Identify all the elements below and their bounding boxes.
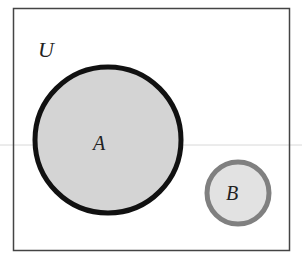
- set-a-circle: [35, 67, 181, 213]
- set-b-label: B: [226, 182, 238, 204]
- venn-diagram: U A B: [0, 0, 302, 263]
- set-a-label: A: [91, 132, 106, 154]
- universe-label: U: [38, 37, 56, 62]
